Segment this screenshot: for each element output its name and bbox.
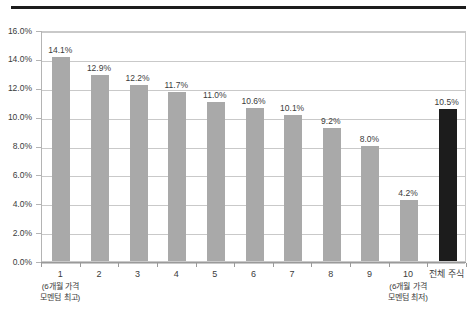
top-rule-divider: [11, 6, 466, 9]
x-axis-annotation-line: (6개월 가격: [15, 282, 105, 293]
y-tick-label: 8.0%: [0, 142, 32, 151]
bar-value-label: 9.2%: [306, 117, 356, 126]
bar-chart: 16.0%14.0%12.0%10.0%8.0%6.0%4.0%2.0%0.0%…: [0, 0, 476, 320]
y-tick-mark: [36, 147, 41, 148]
bar: [284, 115, 302, 261]
bar: [168, 92, 186, 261]
y-tick-label: 0.0%: [0, 258, 32, 267]
bar: [91, 75, 109, 261]
gridline: [42, 61, 465, 62]
bar: [207, 102, 225, 261]
bar-value-label: 14.1%: [35, 46, 85, 55]
x-axis-annotation-line: 모멘텀 최고): [15, 293, 105, 304]
bar-value-label: 10.1%: [267, 104, 317, 113]
x-tick-mark: [41, 263, 42, 267]
y-tick-label: 4.0%: [0, 200, 32, 209]
y-tick-label: 6.0%: [0, 171, 32, 180]
x-tick-label: 전체 주식: [412, 270, 476, 279]
x-tick-mark: [118, 263, 119, 267]
x-tick-mark: [234, 263, 235, 267]
y-tick-mark: [36, 118, 41, 119]
bar: [130, 85, 148, 261]
gridline: [42, 263, 465, 264]
x-tick-mark: [80, 263, 81, 267]
x-axis-annotation-line: (6개월 가격: [363, 282, 453, 293]
y-tick-label: 2.0%: [0, 229, 32, 238]
y-tick-label: 16.0%: [0, 27, 32, 36]
bar-value-label: 4.2%: [383, 189, 433, 198]
bar-value-label: 8.0%: [344, 135, 394, 144]
bar-value-label: 12.9%: [74, 64, 124, 73]
y-tick-mark: [36, 175, 41, 176]
y-axis-line: [41, 31, 42, 262]
y-tick-label: 14.0%: [0, 55, 32, 64]
y-tick-mark: [36, 233, 41, 234]
bar: [323, 128, 341, 261]
bar: [52, 57, 70, 261]
x-tick-mark: [311, 263, 312, 267]
x-tick-mark: [427, 263, 428, 267]
bar: [400, 200, 418, 261]
bar: [439, 109, 457, 261]
y-tick-label: 12.0%: [0, 84, 32, 93]
bar-value-label: 11.7%: [151, 81, 201, 90]
y-tick-label: 10.0%: [0, 113, 32, 122]
y-tick-mark: [36, 204, 41, 205]
bar: [246, 108, 264, 261]
gridline: [42, 32, 465, 33]
x-axis-annotation: (6개월 가격모멘텀 최고): [15, 282, 105, 304]
x-tick-mark: [273, 263, 274, 267]
x-axis-line: [41, 262, 466, 263]
x-tick-mark: [350, 263, 351, 267]
x-tick-mark: [466, 263, 467, 267]
x-axis-annotation: (6개월 가격모멘텀 최저): [363, 282, 453, 304]
x-tick-mark: [196, 263, 197, 267]
y-tick-mark: [36, 89, 41, 90]
bar-value-label: 10.5%: [422, 98, 472, 107]
y-tick-mark: [36, 60, 41, 61]
x-tick-mark: [157, 263, 158, 267]
bar: [361, 146, 379, 262]
x-tick-mark: [389, 263, 390, 267]
y-tick-mark: [36, 31, 41, 32]
x-axis-annotation-line: 모멘텀 최저): [363, 293, 453, 304]
